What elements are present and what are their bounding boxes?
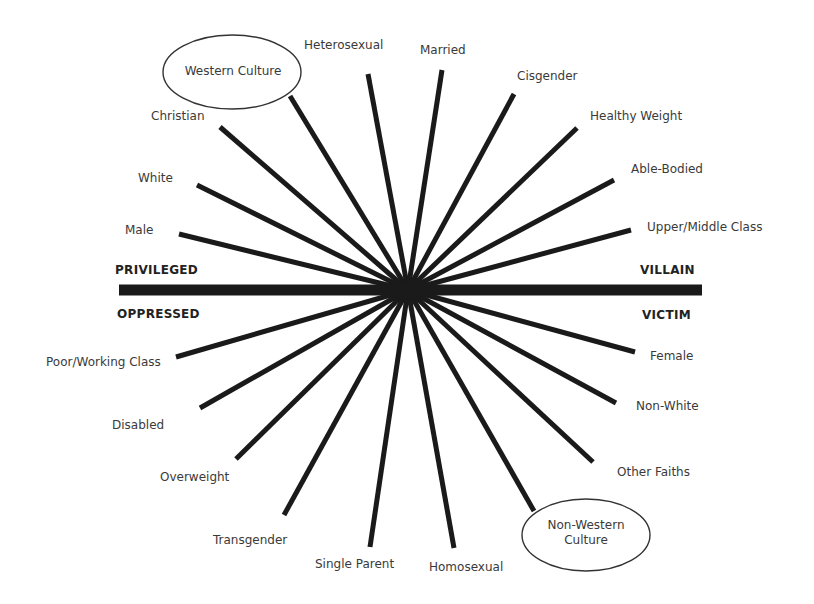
non-western-line2: Culture [530,533,642,548]
victim-label: VICTIM [642,308,691,322]
villain-label: VILLAIN [640,263,695,277]
male-label: Male [125,223,153,237]
privileged-label: PRIVILEGED [115,263,198,277]
married-label: Married [420,43,466,57]
non-white-label: Non-White [636,399,699,413]
transgender-label: Transgender [213,533,287,547]
spoke-lines [176,70,635,548]
cisgender-label: Cisgender [517,69,578,83]
poor-working-class-label: Poor/Working Class [46,355,161,369]
homosexual-label: Homosexual [429,560,503,574]
western-culture-label: Western Culture [178,64,288,79]
disabled-label: Disabled [112,418,164,432]
christian-label: Christian [151,109,205,123]
horizontal-axis-bar [119,285,702,296]
white-label: White [138,171,173,185]
heterosexual-label: Heterosexual [304,38,383,52]
spokes-canvas [0,0,814,604]
non-western-line1: Non-Western [530,518,642,533]
female-label: Female [650,349,693,363]
oppressed-label: OPPRESSED [117,307,200,321]
healthy-weight-label: Healthy Weight [590,109,682,123]
privilege-oppression-diagram: PRIVILEGED OPPRESSED VILLAIN VICTIM West… [0,0,814,604]
non-western-culture-label: Non-Western Culture [530,518,642,548]
single-parent-label: Single Parent [315,557,394,571]
other-faiths-label: Other Faiths [617,465,690,479]
upper-middle-class-label: Upper/Middle Class [647,220,762,234]
able-bodied-label: Able-Bodied [631,162,703,176]
overweight-label: Overweight [160,470,229,484]
